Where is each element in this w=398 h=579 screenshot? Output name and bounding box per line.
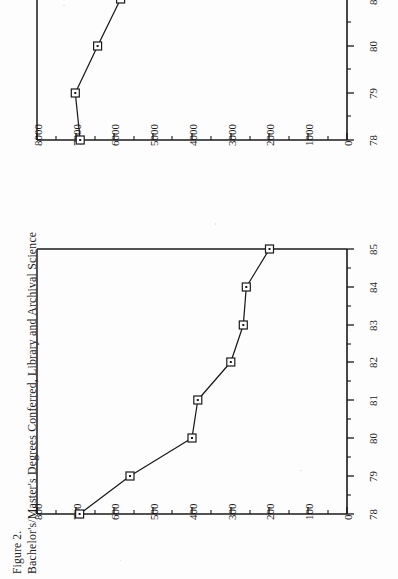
top-chart-series [71,0,142,144]
bottom-ytick-400: 400 [187,503,199,520]
bottom-ytick-800: 800 [32,503,44,520]
top-xtick-79: 79 [367,88,379,100]
data-point-center [269,248,271,250]
data-point-center [245,286,247,288]
bottom-ytick-200: 200 [264,503,276,520]
bottom-xtick-80: 80 [367,433,379,445]
data-point-marker [117,0,125,3]
data-point-center [242,324,244,326]
data-point-center [79,139,81,141]
bottom-chart-year-ticks [347,249,354,514]
bottom-xtick-79: 79 [367,471,379,483]
bottom-xtick-84: 84 [367,282,379,294]
top-chart-year-labels: 78 79 80 81 [367,0,379,146]
bottom-xtick-78: 78 [367,509,379,521]
top-chart-svg: 8000 7000 6000 5000 4000 3000 2000 1000 … [0,0,398,190]
bottom-chart-series [76,245,274,518]
top-ytick-8000: 8000 [32,124,44,147]
data-point-center [79,513,81,515]
bottom-chart-frame [37,249,347,514]
data-point-center [129,475,131,477]
data-point-center [97,45,99,47]
bottom-xtick-82: 82 [367,357,379,368]
top-ytick-4000: 4000 [187,124,199,147]
top-xtick-81: 81 [367,0,379,5]
scanned-page: Figure 2. Bachelor's/Master's Degrees Co… [0,0,398,579]
scan-speckle [120,560,121,561]
top-chart-year-ticks [347,0,354,140]
top-ytick-3000: 3000 [226,124,238,147]
bottom-ytick-600: 600 [109,503,121,520]
bottom-chart-markers [76,245,274,518]
chart-top-bachelors: 8000 7000 6000 5000 4000 3000 2000 1000 … [0,0,398,190]
bottom-xtick-81: 81 [367,395,379,406]
data-point-center [197,399,199,401]
top-xtick-80: 80 [367,41,379,53]
top-chart-markers [71,0,124,144]
bottom-chart-year-labels: 78 79 80 81 82 83 84 85 [367,244,379,521]
bottom-ytick-500: 500 [148,503,160,520]
top-ytick-5000: 5000 [148,124,160,147]
chart-bottom-masters: 800 700 600 500 400 300 200 100 0 [0,239,398,579]
top-xtick-78: 78 [367,135,379,147]
scan-speckle [300,470,302,471]
top-chart-frame [37,0,347,140]
bottom-ytick-300: 300 [226,503,238,520]
scan-speckle [350,330,351,331]
scan-speckle [63,5,65,6]
data-point-center [230,361,232,363]
top-ytick-1000: 1000 [303,124,315,147]
bottom-xtick-85: 85 [367,244,379,256]
bottom-xtick-83: 83 [367,320,379,332]
top-ytick-6000: 6000 [109,124,121,147]
bottom-ytick-100: 100 [303,503,315,520]
bottom-chart-svg: 800 700 600 500 400 300 200 100 0 [0,239,398,579]
top-ytick-2000: 2000 [264,124,276,147]
data-point-center [191,437,193,439]
scan-speckle [215,223,216,225]
top-ytick-0: 0 [342,140,354,146]
bottom-ytick-0: 0 [342,514,354,520]
data-point-center [74,92,76,94]
